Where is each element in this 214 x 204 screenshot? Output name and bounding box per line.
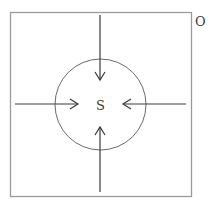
arrow-left-icon [123,99,186,109]
arrow-right-icon [15,99,78,109]
inner-circle-label: S [96,98,105,113]
arrow-up-icon [95,127,105,192]
arrow-down-icon [95,15,105,80]
outer-region-label: O [195,14,206,29]
diagram-canvas: O S [0,0,214,204]
